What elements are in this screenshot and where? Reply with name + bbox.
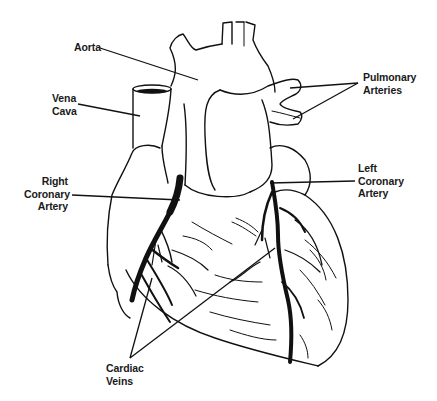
label-right-coronary-artery: Right Coronary Artery	[24, 175, 68, 213]
label-vena-cava: Vena Cava	[52, 92, 77, 117]
vena-cava-shape	[133, 85, 171, 148]
aorta-shape	[170, 22, 275, 92]
left-coronary-leader	[270, 181, 355, 183]
label-pulmonary-arteries: Pulmonary Arteries	[363, 71, 416, 96]
heart-outline	[107, 90, 348, 366]
label-cardiac-veins: Cardiac Veins	[106, 362, 144, 387]
aorta-leader	[100, 48, 198, 80]
label-aorta: Aorta	[74, 41, 101, 54]
label-left-coronary-artery: Left Coronary Artery	[358, 162, 404, 200]
vena-cava-leader	[78, 104, 140, 116]
right-coronary-leader	[72, 195, 180, 200]
pulmonary-arteries-shape	[220, 79, 302, 125]
pulmonary-leader-lower	[293, 83, 358, 119]
